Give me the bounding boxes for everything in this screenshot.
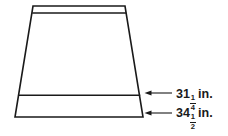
bottom-width-unit: in. — [198, 106, 213, 120]
bottom-width-label: 3412in. — [176, 107, 213, 131]
figure-root: 3114in. 3412in. — [0, 0, 228, 136]
bottom-width-denominator: 2 — [190, 122, 195, 131]
bottom-width-numerator: 1 — [190, 113, 195, 121]
dimension-labels-layer: 3114in. 3412in. — [0, 0, 228, 136]
hem-width-whole-number: 31 — [176, 87, 190, 101]
bottom-width-whole-number: 34 — [176, 106, 190, 120]
bottom-width-fraction: 12 — [190, 113, 195, 130]
hem-width-numerator: 1 — [190, 94, 195, 102]
hem-width-unit: in. — [198, 87, 213, 101]
